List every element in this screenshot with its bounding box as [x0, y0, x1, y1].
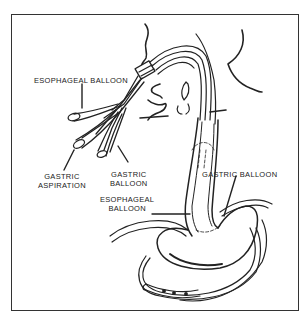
tube-nasopharynx [150, 34, 216, 124]
label-esophageal-balloon: ESOPHAGEAL BALLOON [100, 195, 154, 213]
label-gastric-aspiration: GASTRIC ASPIRATION [38, 172, 86, 190]
head-back [210, 30, 262, 112]
tube-anatomy-illustration [0, 0, 308, 324]
label-esophageal-balloon-port: ESOPHAGEAL BALLOON [34, 76, 128, 85]
larynx [177, 82, 189, 114]
label-gastric-balloon: GASTRIC BALLOON [202, 170, 277, 179]
label-gastric-balloon-port: GASTRIC BALLOON [110, 170, 148, 188]
external-tube-ports [67, 76, 144, 159]
stomach [157, 206, 257, 269]
